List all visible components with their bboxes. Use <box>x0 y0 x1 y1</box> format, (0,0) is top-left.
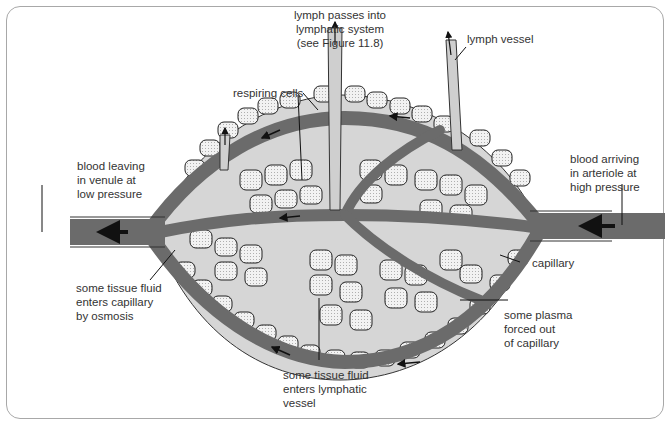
capillary-bed-diagram <box>0 0 671 427</box>
label-capillary: capillary <box>532 256 574 270</box>
label-plasma-forced: some plasma forced out of capillary <box>504 308 572 350</box>
label-lymph-vessel: lymph vessel <box>467 32 533 46</box>
venule <box>70 217 165 247</box>
label-blood-leaving: blood leaving in venule at low pressure <box>77 159 145 201</box>
label-lymph-system: lymph passes into lymphatic system (see … <box>280 8 400 50</box>
label-tissue-fluid-capillary: some tissue fluid enters capillary by os… <box>76 281 162 323</box>
label-tissue-fluid-lymph: some tissue fluid enters lymphatic vesse… <box>283 368 369 410</box>
label-respiring-cells: respiring cells <box>233 86 303 100</box>
arteriole <box>530 211 665 241</box>
label-blood-arriving: blood arriving in arteriole at high pres… <box>570 152 640 194</box>
